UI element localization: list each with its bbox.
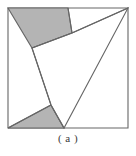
figure-caption: ( a ) [0,131,136,145]
figure-container: ( a ) [0,0,136,156]
